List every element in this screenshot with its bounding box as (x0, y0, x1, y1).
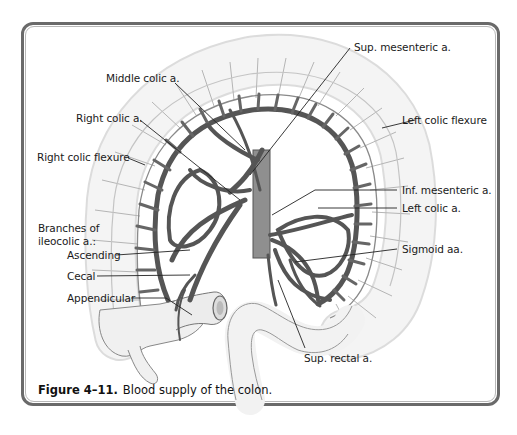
figure-caption-text: Blood supply of the colon. (123, 383, 272, 397)
label-right-colic-artery: Right colic a. (76, 112, 143, 124)
colon-blood-supply-illustration (0, 0, 517, 435)
label-appendicular-branch: Appendicular (67, 292, 135, 304)
label-sup-mesenteric-artery: Sup. mesenteric a. (354, 41, 451, 53)
label-cecal-branch: Cecal (67, 270, 95, 282)
label-branches-heading-1: Branches of (38, 222, 99, 234)
label-ascending-branch: Ascending (67, 249, 121, 261)
label-sup-rectal-artery: Sup. rectal a. (304, 352, 372, 364)
figure-caption: Figure 4–11.Blood supply of the colon. (38, 383, 272, 397)
label-inf-mesenteric-artery: Inf. mesenteric a. (402, 184, 492, 196)
label-middle-colic-artery: Middle colic a. (106, 72, 179, 84)
label-left-colic-artery: Left colic a. (402, 202, 461, 214)
figure-number: Figure 4–11. (38, 383, 118, 397)
label-right-colic-flexure: Right colic flexure (37, 151, 130, 163)
label-sigmoid-arteries: Sigmoid aa. (402, 243, 463, 255)
label-left-colic-flexure: Left colic flexure (402, 114, 487, 126)
label-branches-heading-2: ileocolic a.: (38, 235, 96, 247)
